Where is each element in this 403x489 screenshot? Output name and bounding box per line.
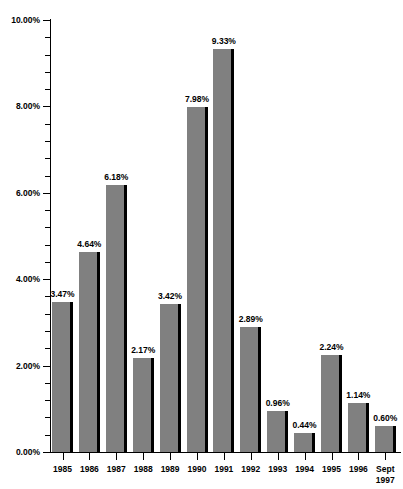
- y-axis-minor-tick: [45, 72, 51, 73]
- bar: [79, 252, 100, 452]
- bar-chart: 0.00%2.00%4.00%6.00%8.00%10.00% 3.47%4.6…: [0, 0, 403, 489]
- bar: [187, 107, 208, 452]
- x-axis-tick: [224, 453, 225, 460]
- bar: [348, 403, 369, 452]
- y-axis-minor-tick: [45, 331, 51, 332]
- x-axis-tick: [170, 453, 171, 460]
- y-axis-major-tick: [43, 20, 51, 21]
- y-axis-minor-tick: [45, 89, 51, 90]
- bar-value-label: 3.47%: [41, 290, 85, 299]
- bar: [321, 355, 342, 452]
- y-axis-minor-tick: [45, 417, 51, 418]
- y-axis-label: 6.00%: [0, 189, 40, 197]
- x-axis-tick: [89, 453, 90, 460]
- x-axis-tick: [197, 453, 198, 460]
- bar: [294, 433, 315, 452]
- x-axis-tick: [332, 453, 333, 460]
- y-axis-minor-tick: [45, 55, 51, 56]
- x-axis-label: Sept 1997: [365, 464, 403, 486]
- x-axis-line: [50, 452, 401, 453]
- y-axis-minor-tick: [45, 262, 51, 263]
- y-axis-major-tick: [43, 452, 51, 453]
- y-axis-major-tick: [43, 193, 51, 194]
- y-axis-major-tick: [43, 366, 51, 367]
- bar-value-label: 3.42%: [148, 292, 192, 301]
- y-axis-minor-tick: [45, 176, 51, 177]
- bar-value-label: 0.44%: [283, 421, 327, 430]
- y-axis-minor-tick: [45, 210, 51, 211]
- y-axis-minor-tick: [45, 314, 51, 315]
- y-axis-minor-tick: [45, 37, 51, 38]
- bar-value-label: 0.96%: [256, 399, 300, 408]
- x-axis-tick: [385, 453, 386, 460]
- bar: [267, 411, 288, 452]
- bar-value-label: 9.33%: [202, 37, 246, 46]
- x-axis-tick: [358, 453, 359, 460]
- y-axis-label: 2.00%: [0, 362, 40, 370]
- y-axis-minor-tick: [45, 383, 51, 384]
- y-axis-major-tick: [43, 106, 51, 107]
- y-axis-minor-tick: [45, 400, 51, 401]
- x-axis-tick: [116, 453, 117, 460]
- bar-value-label: 2.89%: [229, 315, 273, 324]
- bar: [375, 426, 396, 452]
- x-axis-tick: [63, 453, 64, 460]
- bar-value-label: 0.60%: [363, 414, 403, 423]
- x-axis-tick: [305, 453, 306, 460]
- chart-title-clipped: [0, 0, 403, 5]
- x-axis-tick: [143, 453, 144, 460]
- y-axis-minor-tick: [45, 348, 51, 349]
- bar: [52, 302, 73, 452]
- y-axis-minor-tick: [45, 124, 51, 125]
- y-axis-minor-tick: [45, 158, 51, 159]
- y-axis-line: [50, 19, 51, 453]
- x-axis-tick: [251, 453, 252, 460]
- y-axis-minor-tick: [45, 245, 51, 246]
- bar-value-label: 2.24%: [310, 343, 354, 352]
- y-axis-minor-tick: [45, 435, 51, 436]
- bar: [106, 185, 127, 452]
- bar: [213, 49, 234, 452]
- bar-value-label: 7.98%: [175, 95, 219, 104]
- y-axis-minor-tick: [45, 141, 51, 142]
- y-axis-label: 4.00%: [0, 275, 40, 283]
- y-axis-label: 10.00%: [0, 16, 40, 24]
- bar-value-label: 1.14%: [336, 391, 380, 400]
- bar: [133, 358, 154, 452]
- bar: [160, 304, 181, 452]
- bar-value-label: 4.64%: [67, 240, 111, 249]
- y-axis-label: 8.00%: [0, 102, 40, 110]
- bar-value-label: 2.17%: [121, 346, 165, 355]
- y-axis-minor-tick: [45, 227, 51, 228]
- x-axis-tick: [278, 453, 279, 460]
- y-axis-major-tick: [43, 279, 51, 280]
- bar-value-label: 6.18%: [94, 173, 138, 182]
- y-axis-label: 0.00%: [0, 448, 40, 456]
- bar: [240, 327, 261, 452]
